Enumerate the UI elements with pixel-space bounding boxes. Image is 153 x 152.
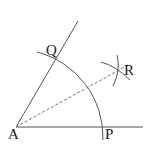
arc-from-p xyxy=(113,55,118,86)
label-a: A xyxy=(8,126,19,142)
label-q: Q xyxy=(46,42,57,58)
label-r: R xyxy=(124,62,134,78)
angle-bisector-diagram: A P Q R xyxy=(0,0,153,152)
label-p: P xyxy=(105,126,113,142)
upper-ray xyxy=(16,21,78,127)
diagram-svg: A P Q R xyxy=(0,0,153,152)
bisector-dashed-line xyxy=(16,65,128,127)
